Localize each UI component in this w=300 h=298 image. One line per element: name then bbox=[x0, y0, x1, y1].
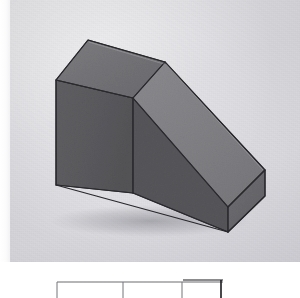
figure-stage: Isometric pictorial of a wedge-shaped so… bbox=[0, 0, 300, 298]
paper-background bbox=[9, 0, 300, 268]
page-left-margin bbox=[0, 0, 10, 268]
measurement-table bbox=[0, 262, 300, 298]
paper-vignette bbox=[9, 0, 300, 268]
paper-grain-texture bbox=[9, 0, 300, 268]
